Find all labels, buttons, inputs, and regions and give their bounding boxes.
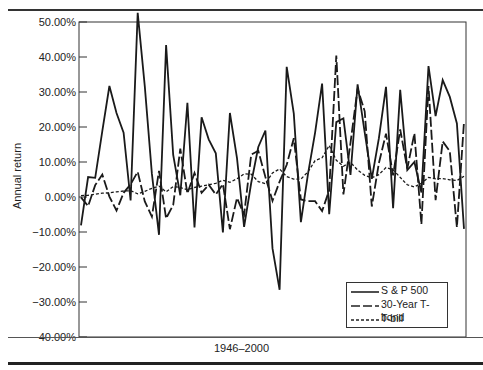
x-axis-label: 1946–2000 <box>0 342 483 354</box>
y-tick-label: 0.00% <box>45 191 76 203</box>
dotted-line-icon <box>351 318 379 322</box>
chart-legend: S & P 500 30-Year T-bond T-bill <box>346 282 448 328</box>
legend-label: S & P 500 <box>381 284 428 296</box>
sp500-line <box>81 13 464 290</box>
y-axis-label: Annual return <box>11 131 23 221</box>
legend-label: T-bill <box>381 312 403 324</box>
y-tick-label: −10.00% <box>32 226 76 238</box>
y-tick-label: 20.00% <box>39 121 77 133</box>
legend-item-tbill: T-bill <box>347 312 447 325</box>
bottom-rule <box>8 362 483 365</box>
y-tick-label: −20.00% <box>32 261 76 273</box>
dashed-line-icon <box>351 304 379 308</box>
y-tick-label: 10.00% <box>39 156 77 168</box>
y-tick-label: 40.00% <box>39 51 77 63</box>
y-tick-label: 30.00% <box>39 86 77 98</box>
legend-item-tbond: 30-Year T-bond <box>347 298 447 311</box>
solid-line-icon <box>351 290 379 294</box>
tbond-line <box>81 56 464 230</box>
y-tick-label: 50.00% <box>39 16 77 28</box>
legend-item-sp500: S & P 500 <box>347 284 447 297</box>
y-tick-label: −30.00% <box>32 296 76 308</box>
middle-rule <box>8 337 483 338</box>
